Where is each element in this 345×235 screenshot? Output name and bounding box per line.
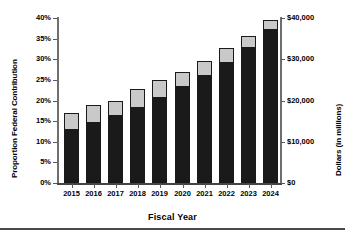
y-tick-left-35% [53, 39, 57, 40]
bar-2017 [108, 101, 123, 183]
bar-segment-upper [263, 20, 278, 30]
bar-segment-upper [64, 113, 79, 130]
y-tick-left-15% [53, 121, 57, 122]
bottom-divider [0, 228, 345, 230]
bar-segment-upper [175, 72, 190, 87]
y-axis-title-right: Dollars (in millions) [334, 104, 343, 176]
x-tick-2022 [227, 184, 228, 188]
y-tick-right-$0 [281, 183, 285, 184]
y-tick-label-right-$20,000: $20,000 [287, 97, 314, 105]
y-tick-left-5% [53, 162, 57, 163]
x-tick-label-2024: 2024 [258, 190, 284, 198]
bar-2020 [175, 72, 190, 183]
x-tick-2017 [116, 184, 117, 188]
y-tick-left-10% [53, 142, 57, 143]
chart-figure: Proportion Federal Contribution Dollars … [0, 0, 345, 235]
y-tick-label-right-$40,000: $40,000 [287, 14, 314, 22]
x-tick-2015 [72, 184, 73, 188]
bar-2018 [130, 89, 145, 183]
bar-segment-upper [152, 80, 167, 98]
y-tick-label-right-$10,000: $10,000 [287, 138, 314, 146]
bar-segment-upper [108, 101, 123, 116]
bar-segment-lower [263, 30, 278, 183]
y-tick-label-right-$30,000: $30,000 [287, 55, 314, 63]
y-tick-label-left-15%: 15% [17, 117, 51, 125]
y-tick-label-left-5%: 5% [17, 158, 51, 166]
bar-segment-lower [152, 98, 167, 183]
bar-segment-lower [108, 116, 123, 183]
bar-2019 [152, 80, 167, 183]
bar-segment-lower [130, 108, 145, 183]
x-tick-2016 [94, 184, 95, 188]
y-tick-right-$30,000 [281, 59, 285, 60]
x-axis-title: Fiscal Year [0, 212, 345, 222]
bar-segment-lower [241, 48, 256, 183]
x-tick-2019 [160, 184, 161, 188]
bar-2015 [64, 113, 79, 183]
bar-segment-lower [175, 87, 190, 183]
bar-segment-lower [219, 63, 234, 183]
bar-2024 [263, 20, 278, 183]
x-tick-2018 [138, 184, 139, 188]
y-tick-label-right-$0: $0 [287, 179, 295, 187]
y-tick-label-left-20%: 20% [17, 97, 51, 105]
bar-segment-upper [219, 48, 234, 62]
bar-segment-upper [86, 105, 101, 123]
x-tick-2021 [205, 184, 206, 188]
y-tick-label-left-30%: 30% [17, 55, 51, 63]
y-tick-left-25% [53, 80, 57, 81]
bar-segment-lower [64, 130, 79, 183]
x-tick-2020 [183, 184, 184, 188]
y-tick-label-left-25%: 25% [17, 76, 51, 84]
y-tick-label-left-35%: 35% [17, 35, 51, 43]
y-tick-left-20% [53, 101, 57, 102]
y-tick-label-left-40%: 40% [17, 14, 51, 22]
y-tick-label-left-0%: 0% [17, 179, 51, 187]
y-tick-left-0% [53, 183, 57, 184]
x-tick-2024 [271, 184, 272, 188]
bar-segment-lower [197, 76, 212, 183]
y-tick-right-$40,000 [281, 18, 285, 19]
bar-2023 [241, 36, 256, 183]
y-tick-left-30% [53, 59, 57, 60]
bar-2016 [86, 105, 101, 183]
y-tick-right-$10,000 [281, 142, 285, 143]
bar-2022 [219, 48, 234, 183]
plot-area [58, 18, 280, 183]
bar-2021 [197, 61, 212, 184]
bar-segment-lower [86, 123, 101, 183]
y-tick-right-$20,000 [281, 101, 285, 102]
bar-segment-upper [197, 61, 212, 76]
bar-segment-upper [130, 89, 145, 108]
bar-segment-upper [241, 36, 256, 48]
y-tick-left-40% [53, 18, 57, 19]
y-tick-label-left-10%: 10% [17, 138, 51, 146]
x-tick-2023 [249, 184, 250, 188]
